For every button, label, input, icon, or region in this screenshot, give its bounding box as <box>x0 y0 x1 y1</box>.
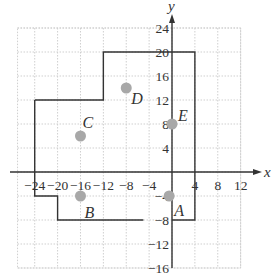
grid-lines <box>18 28 241 268</box>
y-tick-label: −16 <box>148 261 169 276</box>
point-e-marker <box>167 119 178 130</box>
x-tick-label: −12 <box>93 178 114 193</box>
x-tick-label: 8 <box>214 178 221 193</box>
point-a-label: A <box>173 202 184 219</box>
point-c-label: C <box>82 114 93 131</box>
x-tick-label: −20 <box>47 178 68 193</box>
point-d-marker <box>121 83 132 94</box>
point-e-label: E <box>177 107 188 124</box>
y-tick-label: 20 <box>156 45 170 60</box>
y-axis-arrow-icon <box>169 14 175 23</box>
y-tick-label: −12 <box>148 237 169 252</box>
x-tick-label: 12 <box>234 178 248 193</box>
y-tick-label: 12 <box>156 93 170 108</box>
x-tick-label: −24 <box>24 178 45 193</box>
x-axis-arrow-icon <box>253 169 262 175</box>
x-tick-label: 4 <box>192 178 199 193</box>
point-c-marker <box>75 131 86 142</box>
x-tick-label: −8 <box>119 178 134 193</box>
y-tick-label: 4 <box>162 141 169 156</box>
y-axis-label: y <box>166 0 175 14</box>
x-axis-label: x <box>263 164 271 180</box>
y-tick-label: 24 <box>156 21 170 36</box>
point-b-label: B <box>84 204 94 221</box>
point-a-marker <box>164 191 175 202</box>
point-d-label: D <box>130 90 143 107</box>
coordinate-plane: −24−20−16−12−8−448122420161284−4−8−12−16… <box>0 0 274 278</box>
data-points: ABCDE <box>75 83 188 222</box>
y-tick-label: 16 <box>156 69 170 84</box>
y-tick-label: −8 <box>155 213 170 228</box>
point-b-marker <box>75 191 86 202</box>
